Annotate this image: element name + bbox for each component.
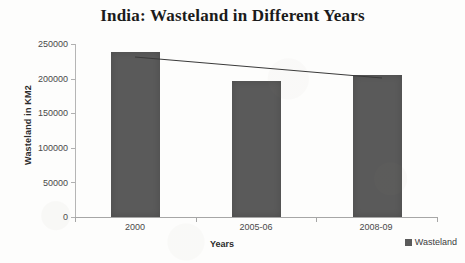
y-tick-label-250000: 250000: [12, 39, 68, 49]
bar-2008-09[interactable]: [353, 75, 402, 217]
y-tick-label-150000: 150000: [12, 108, 68, 118]
bar-2000[interactable]: [111, 52, 160, 217]
x-tick-mark-3: [437, 217, 438, 222]
y-tick-label-0: 0: [12, 212, 68, 222]
x-axis-title: Years: [162, 239, 282, 249]
chart-container: India: Wasteland in Different Years Wast…: [0, 0, 465, 263]
x-axis-line: [75, 217, 438, 218]
y-tick-label-50000: 50000: [12, 178, 68, 188]
page-title: India: Wasteland in Different Years: [0, 6, 465, 26]
y-tick-label-200000: 200000: [12, 74, 68, 84]
x-tick-label-2005-06: 2005-06: [196, 222, 316, 232]
x-tick-label-2008-09: 2008-09: [316, 222, 436, 232]
wasteland-swatch-icon: [405, 239, 412, 246]
plot-area: [75, 44, 438, 217]
bar-2005-06[interactable]: [232, 81, 281, 217]
legend-item-wasteland[interactable]: Wasteland: [415, 237, 457, 247]
legend: Wasteland: [405, 237, 457, 247]
y-tick-label-100000: 100000: [12, 143, 68, 153]
x-tick-label-2000: 2000: [75, 222, 195, 232]
